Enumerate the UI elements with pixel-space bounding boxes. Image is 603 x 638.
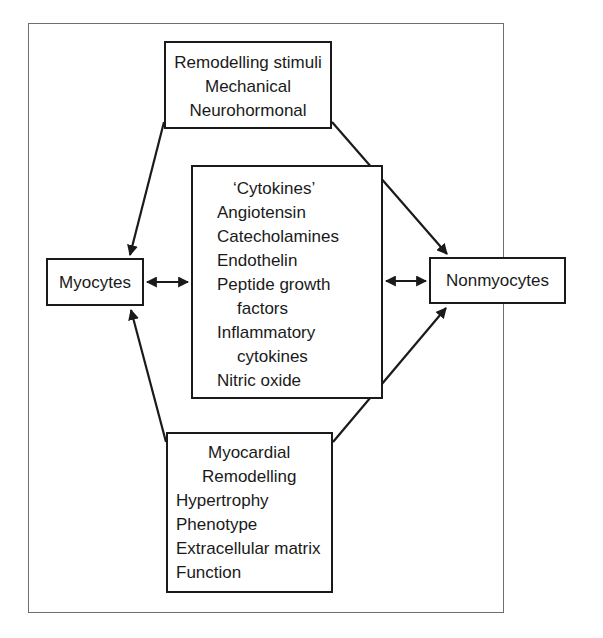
arrow-stimuli-to-myocytes bbox=[130, 122, 164, 255]
node-heading: Remodelling bbox=[176, 465, 331, 489]
node-line: Nitric oxide bbox=[217, 369, 381, 393]
arrow-remodelling-to-myocytes bbox=[131, 310, 166, 442]
node-label: Nonmyocytes bbox=[431, 269, 564, 293]
node-line: cytokines bbox=[217, 345, 381, 369]
node-remodelling-stimuli: Remodelling stimuli Mechanical Neurohorm… bbox=[164, 41, 332, 129]
node-line: Inflammatory bbox=[217, 321, 381, 345]
node-myocardial-remodelling: Myocardial Remodelling Hypertrophy Pheno… bbox=[166, 432, 333, 593]
node-line: Function bbox=[176, 561, 331, 585]
node-line: Angiotensin bbox=[217, 201, 381, 225]
node-line: Endothelin bbox=[217, 249, 381, 273]
node-line: factors bbox=[217, 297, 381, 321]
node-line: Neurohormonal bbox=[166, 99, 330, 123]
node-line: Catecholamines bbox=[217, 225, 381, 249]
node-label: Myocytes bbox=[48, 271, 142, 295]
node-cytokines: ‘Cytokines’ Angiotensin Catecholamines E… bbox=[191, 165, 383, 399]
node-line: Extracellular matrix bbox=[176, 537, 331, 561]
node-line: Mechanical bbox=[166, 75, 330, 99]
node-line: Phenotype bbox=[176, 513, 331, 537]
node-line: Hypertrophy bbox=[176, 489, 331, 513]
node-line: Peptide growth bbox=[217, 273, 381, 297]
node-line: Remodelling stimuli bbox=[166, 51, 330, 75]
node-heading: Myocardial bbox=[176, 441, 331, 465]
node-heading: ‘Cytokines’ bbox=[217, 177, 381, 201]
node-myocytes: Myocytes bbox=[46, 258, 144, 306]
node-nonmyocytes: Nonmyocytes bbox=[429, 257, 566, 304]
